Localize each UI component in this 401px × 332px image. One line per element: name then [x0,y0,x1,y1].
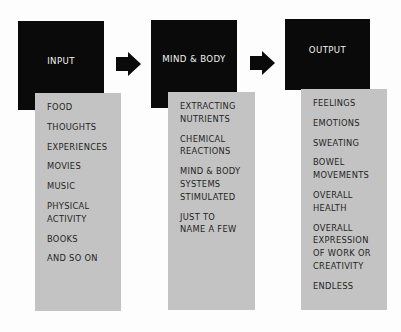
list-item: CHEMICAL REACTIONS [180,133,255,159]
output-title: OUTPUT [309,45,346,55]
input-item-list: FOOD THOUGHTS EXPERIENCES MOVIES MUSIC P… [47,101,121,265]
output-items-box: FEELINGS EMOTIONS SWEATING BOWEL MOVEMEN… [301,89,387,310]
list-item: OVERALL EXPRESSION OF WORK OR CREATIVITY [313,222,387,273]
input-items-box: FOOD THOUGHTS EXPERIENCES MOVIES MUSIC P… [35,93,121,311]
mind-body-item-list: EXTRACTING NUTRIENTS CHEMICAL REACTIONS … [180,100,255,236]
output-item-list: FEELINGS EMOTIONS SWEATING BOWEL MOVEMEN… [313,97,387,293]
mind-body-items-box: EXTRACTING NUTRIENTS CHEMICAL REACTIONS … [168,92,255,310]
list-item: MOVIES [47,160,121,173]
list-item: SWEATING [313,137,387,150]
list-item: ENDLESS [313,280,387,293]
list-item: EMOTIONS [313,117,387,130]
list-item: JUST TO NAME A FEW [180,211,255,237]
list-item: FEELINGS [313,97,387,110]
list-item: MIND & BODY SYSTEMS STIMULATED [180,165,255,203]
right-arrow-icon [250,51,276,77]
list-item: EXPERIENCES [47,141,121,154]
list-item: BOOKS [47,233,121,246]
list-item: EXTRACTING NUTRIENTS [180,100,255,126]
mind-body-title: MIND & BODY [162,54,225,64]
output-header-box: OUTPUT [285,19,370,90]
list-item: BOWEL MOVEMENTS [313,156,387,182]
flow-diagram: INPUT FOOD THOUGHTS EXPERIENCES MOVIES M… [0,0,401,332]
list-item: OVERALL HEALTH [313,189,387,215]
right-arrow-icon [116,52,142,78]
list-item: FOOD [47,101,121,114]
input-title: INPUT [47,56,75,66]
list-item: THOUGHTS [47,121,121,134]
list-item: MUSIC [47,180,121,193]
list-item: PHYSICAL ACTIVITY [47,200,121,226]
list-item: AND SO ON [47,252,121,265]
